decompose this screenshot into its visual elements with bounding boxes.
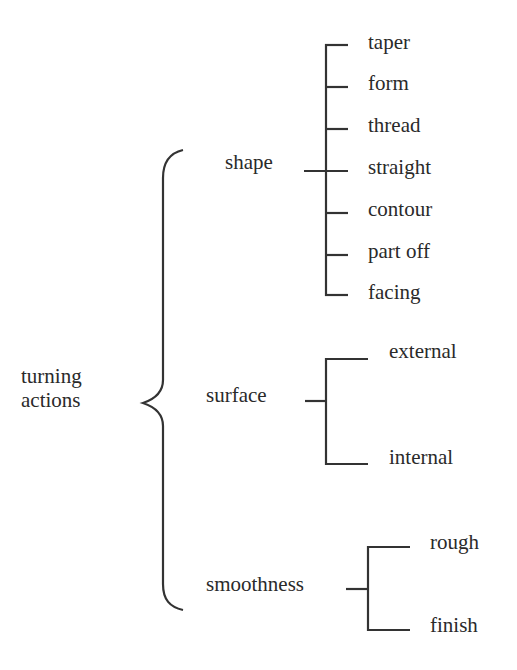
branch-surface: surface bbox=[206, 384, 267, 406]
leaf-rough: rough bbox=[430, 531, 479, 553]
connector-lines bbox=[0, 0, 517, 670]
leaf-part-off: part off bbox=[368, 240, 430, 262]
leaf-taper: taper bbox=[368, 31, 410, 53]
leaf-external: external bbox=[389, 340, 457, 362]
curly-brace bbox=[143, 150, 183, 610]
leaf-thread: thread bbox=[368, 114, 420, 136]
leaf-facing: facing bbox=[368, 281, 420, 303]
root-label-line2: actions bbox=[21, 388, 82, 412]
root-label: turning actions bbox=[21, 364, 82, 412]
leaf-contour: contour bbox=[368, 198, 432, 220]
leaf-straight: straight bbox=[368, 156, 431, 178]
branch-smoothness: smoothness bbox=[206, 573, 304, 595]
root-label-line1: turning bbox=[21, 364, 82, 388]
leaf-form: form bbox=[368, 72, 409, 94]
leaf-internal: internal bbox=[389, 446, 453, 468]
leaf-finish: finish bbox=[430, 614, 478, 636]
branch-shape: shape bbox=[225, 151, 273, 173]
